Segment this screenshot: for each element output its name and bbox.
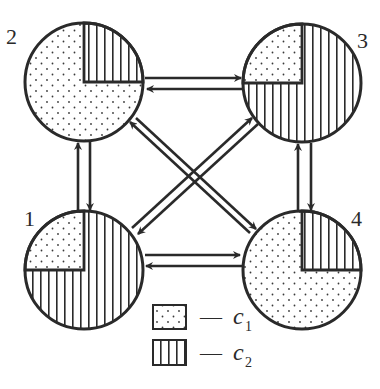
legend-subscript-c1: 1 — [245, 319, 252, 334]
arrow-4-to-2 — [130, 122, 250, 233]
legend-symbol-c2: c — [233, 339, 244, 365]
legend-symbol-c1: c — [233, 303, 244, 329]
legend-item-c2: — c 2 — [153, 339, 252, 370]
state-diagram: 2 3 1 4 — c 1 — c 2 — [0, 0, 380, 389]
node-1-label: 1 — [24, 206, 35, 231]
legend-item-c1: — c 1 — [153, 303, 252, 334]
node-2: 2 — [6, 23, 143, 141]
node-3: 3 — [243, 24, 368, 142]
legend-swatch-striped — [153, 340, 186, 365]
node-4: 4 — [243, 206, 362, 329]
legend-subscript-c2: 2 — [245, 355, 252, 370]
node-4-label: 4 — [351, 206, 362, 231]
legend: — c 1 — c 2 — [153, 303, 252, 370]
node-3-label: 3 — [357, 28, 368, 53]
arrow-3-to-1 — [138, 124, 258, 234]
arrow-1-to-3 — [132, 118, 252, 228]
node-1: 1 — [24, 206, 143, 329]
node-2-label: 2 — [6, 24, 17, 49]
legend-dash-c1: — — [199, 304, 223, 329]
legend-swatch-dotted — [153, 305, 186, 329]
legend-dash-c2: — — [199, 340, 223, 365]
arrow-2-to-4 — [136, 118, 256, 229]
